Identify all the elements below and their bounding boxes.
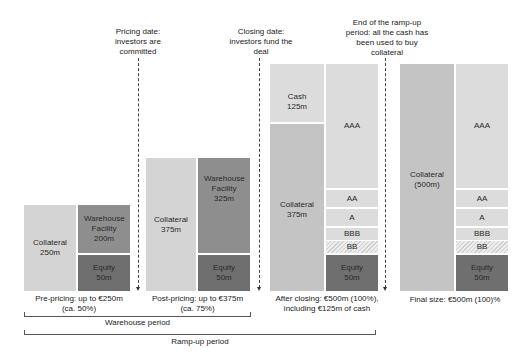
tranche-bbb: BBB [326,228,378,240]
closing-date-marker [259,58,260,288]
ramp-up-period-label: Ramp-up period [24,337,376,347]
equity-block: Equity 50m [198,255,250,291]
stage-caption: After closing: €500m (100%), including €… [262,294,392,314]
stage-caption: Post-pricing: up to €375m (ca. 75%) [135,294,260,314]
collateral-block: Collateral 375m [146,158,196,291]
collateral-block: Collateral (500m) [400,64,454,291]
collateral-block: Collateral 375m [270,124,324,291]
pricing-date-annotation: Pricing date: investors are committed [108,27,168,57]
stage-caption: Pre-pricing: up to €250m (ca. 50%) [14,294,144,314]
tranche-bb: BB [456,241,508,253]
equity-block: Equity 50m [456,255,508,291]
closing-arrowhead-icon [257,287,261,291]
stage-caption: Final size: €500m (100)% [400,295,510,305]
equity-block: Equity 50m [326,255,378,291]
pricing-arrowhead-icon [136,287,140,291]
tranche-aa: AA [456,190,508,207]
tranche-bbb: BBB [456,228,508,240]
warehouse-period-bracket [24,312,251,317]
warehouse-facility-block: Warehouse Facility 325m [198,158,250,253]
end-ramp-up-annotation: End of the ramp-up period: all the cash … [345,18,429,58]
pricing-date-marker [138,58,139,288]
warehouse-facility-block: Warehouse Facility 200m [78,205,130,253]
collateral-block: Collateral 250m [24,205,76,291]
ramp-up-end-marker [385,58,386,288]
cash-block: Cash 125m [270,64,324,122]
ramp-up-arrowhead-icon [383,287,387,291]
tranche-aa: AA [326,190,378,207]
ramp-up-period-bracket [24,330,376,335]
tranche-aaa: AAA [326,64,378,188]
equity-block: Equity 50m [78,255,130,291]
tranche-a: A [456,209,508,226]
tranche-bb: BB [326,241,378,253]
tranche-aaa: AAA [456,64,508,188]
closing-date-annotation: Closing date: investors fund the deal [225,27,297,57]
tranche-a: A [326,209,378,226]
warehouse-period-label: Warehouse period [24,318,251,328]
